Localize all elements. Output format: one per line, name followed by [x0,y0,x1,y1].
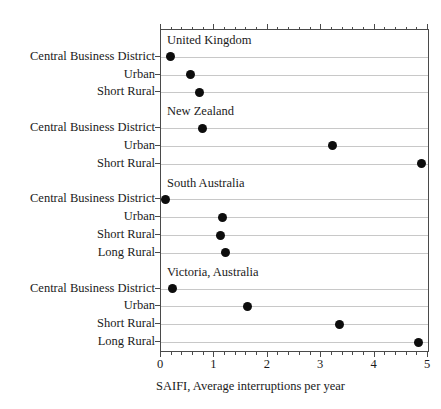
x-axis-minor-tick [203,351,204,355]
gridline [161,164,428,165]
x-axis-minor-tick [363,27,364,31]
gridline [161,199,428,200]
x-axis-minor-tick [310,27,311,31]
x-axis-minor-tick [235,27,236,31]
x-axis-minor-tick [310,351,311,355]
gridline [161,217,428,218]
group-title: New Zealand [167,105,234,118]
group-title: United Kingdom [167,34,251,47]
data-point [221,248,230,257]
x-axis-major-tick [320,24,321,30]
x-axis-major-tick [267,24,268,30]
data-point [198,124,207,133]
gridline [161,324,428,325]
figure: Central Business DistrictUrbanShort Rura… [0,0,441,409]
x-axis-minor-tick [331,27,332,31]
x-axis-minor-tick [352,27,353,31]
x-axis-minor-tick [352,351,353,355]
x-axis-minor-tick [416,27,417,31]
x-axis-major-tick [213,24,214,30]
x-axis-major-tick [374,24,375,30]
x-axis-tick-label: 2 [264,358,270,371]
x-axis-minor-tick [277,27,278,31]
x-axis-minor-tick [171,351,172,355]
x-axis-title: SAIFI, Average interruptions per year [0,379,441,394]
data-point [161,195,170,204]
x-axis-minor-tick [256,351,257,355]
data-point [243,302,252,311]
x-axis-minor-tick [245,27,246,31]
x-axis-tick-label: 3 [317,358,323,371]
x-axis-minor-tick [192,27,193,31]
x-axis-minor-tick [181,351,182,355]
gridline [161,342,428,343]
gridline [161,235,428,236]
x-axis-minor-tick [256,27,257,31]
data-point [195,88,204,97]
x-axis-ticks-top [160,22,429,30]
x-axis-minor-tick [299,351,300,355]
x-axis-minor-tick [342,351,343,355]
x-axis-minor-tick [203,27,204,31]
gridline [161,253,428,254]
x-axis-minor-tick [181,27,182,31]
plot-area: United KingdomNew ZealandSouth Australia… [160,29,429,352]
x-axis-minor-tick [235,351,236,355]
data-point [335,320,344,329]
x-axis-minor-tick [331,351,332,355]
x-axis-minor-tick [224,351,225,355]
x-axis-minor-tick [406,351,407,355]
x-axis-minor-tick [416,351,417,355]
x-axis-minor-tick [363,351,364,355]
data-point [218,213,227,222]
x-axis-title-text: SAIFI, Average interruptions per year [156,379,345,394]
gridline [161,75,428,76]
data-point [417,159,426,168]
data-point [186,70,195,79]
x-axis-minor-tick [288,27,289,31]
x-axis-minor-tick [384,27,385,31]
x-axis-minor-tick [192,351,193,355]
x-axis-minor-tick [288,351,289,355]
gridline [161,306,428,307]
data-point [414,338,423,347]
group-title: Victoria, Australia [167,266,259,279]
x-axis-minor-tick [277,351,278,355]
x-axis-tick-label: 1 [210,358,216,371]
x-axis-minor-tick [342,27,343,31]
x-axis-minor-tick [395,351,396,355]
x-axis-minor-tick [395,27,396,31]
data-point [166,52,175,61]
x-axis-minor-tick [171,27,172,31]
x-axis-minor-tick [224,27,225,31]
x-axis-tick-label: 4 [370,358,376,371]
x-axis-tick-label: 5 [424,358,430,371]
x-axis-major-tick [427,24,428,30]
x-axis-major-tick [160,24,161,30]
data-point [216,231,225,240]
x-axis-ticks-bottom [160,351,429,359]
x-axis-tick-label: 0 [157,358,163,371]
gridline [161,289,428,290]
gridline [161,146,428,147]
gridline [161,57,428,58]
data-point [168,284,177,293]
group-title: South Australia [167,177,244,190]
x-axis-minor-tick [406,27,407,31]
x-axis-minor-tick [245,351,246,355]
y-axis-ticks [0,29,161,350]
x-axis-minor-tick [384,351,385,355]
data-point [328,141,337,150]
x-axis-minor-tick [299,27,300,31]
